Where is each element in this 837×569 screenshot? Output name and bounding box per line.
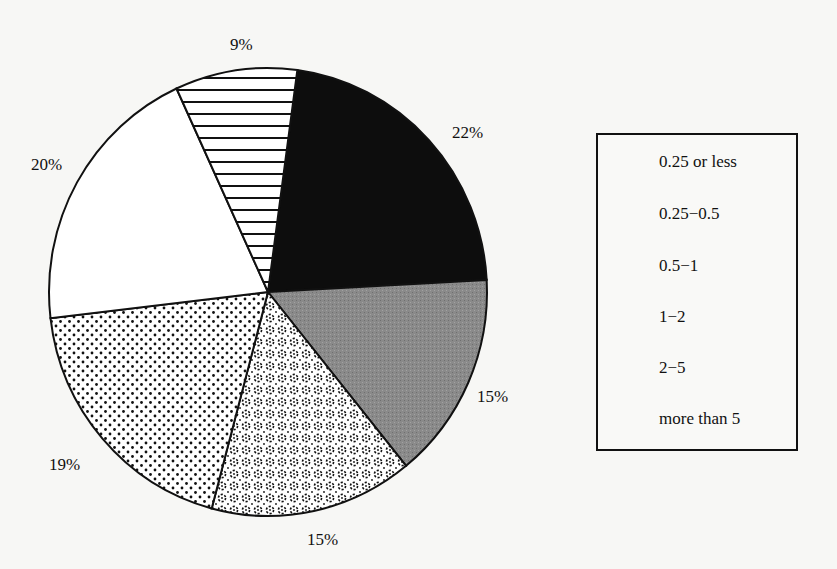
slice-label-more-than-5: 9% [230,35,253,55]
legend-item-0-5-1: 0.5−1 [615,254,698,278]
legend-item-more-than-5: more than 5 [615,407,740,431]
legend-label: 0.25−0.5 [659,204,720,224]
legend-item-1-2: 1−2 [615,305,686,329]
slice-label-0-25-or-less: 22% [452,123,483,143]
slice-label-1-2: 19% [49,455,80,475]
slice-label-0-5-1: 15% [307,530,338,550]
legend-item-2-5: 2−5 [615,356,686,380]
legend: 0.25 or less 0.25−0.5 0.5−1 1−2 2−5 more… [596,133,798,451]
pie-slices [49,68,487,516]
legend-item-0-25-or-less: 0.25 or less [615,150,737,174]
legend-label: more than 5 [659,409,740,429]
slice-label-2-5: 20% [31,155,62,175]
slice-label-0-25-0-5: 15% [477,387,508,407]
pie-slice-0-25-or-less [268,70,487,292]
legend-label: 0.5−1 [659,256,698,276]
legend-item-0-25-0-5: 0.25−0.5 [615,202,720,226]
legend-label: 2−5 [659,358,686,378]
legend-label: 0.25 or less [659,152,737,172]
legend-label: 1−2 [659,307,686,327]
